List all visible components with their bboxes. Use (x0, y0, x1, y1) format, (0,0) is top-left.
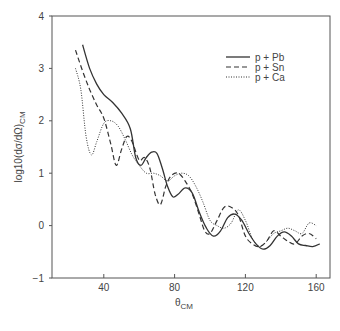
series-p-ca (76, 68, 317, 246)
x-tick-label: 80 (169, 282, 181, 293)
y-tick-label: 3 (38, 63, 44, 74)
y-axis-label: log10(dσ/dΩ)CM (13, 111, 27, 182)
x-axis-ticks: 4080120160 (98, 274, 325, 293)
y-tick-label: 4 (38, 11, 44, 22)
x-axis-label: θCM (175, 297, 193, 311)
legend: p + Pbp + Snp + Ca (226, 52, 285, 83)
y-tick-label: 1 (38, 168, 44, 179)
plot-frame (52, 16, 330, 278)
y-tick-label: −1 (33, 273, 45, 284)
chart: −101234 4080120160 p + Pbp + Snp + Ca θC… (0, 0, 340, 331)
legend-label: p + Ca (255, 72, 285, 83)
x-tick-label: 160 (308, 282, 325, 293)
y-axis-ticks: −101234 (33, 11, 52, 284)
y-tick-label: 2 (38, 115, 44, 126)
x-tick-label: 120 (237, 282, 254, 293)
x-tick-label: 40 (98, 282, 110, 293)
y-tick-label: 0 (38, 220, 44, 231)
